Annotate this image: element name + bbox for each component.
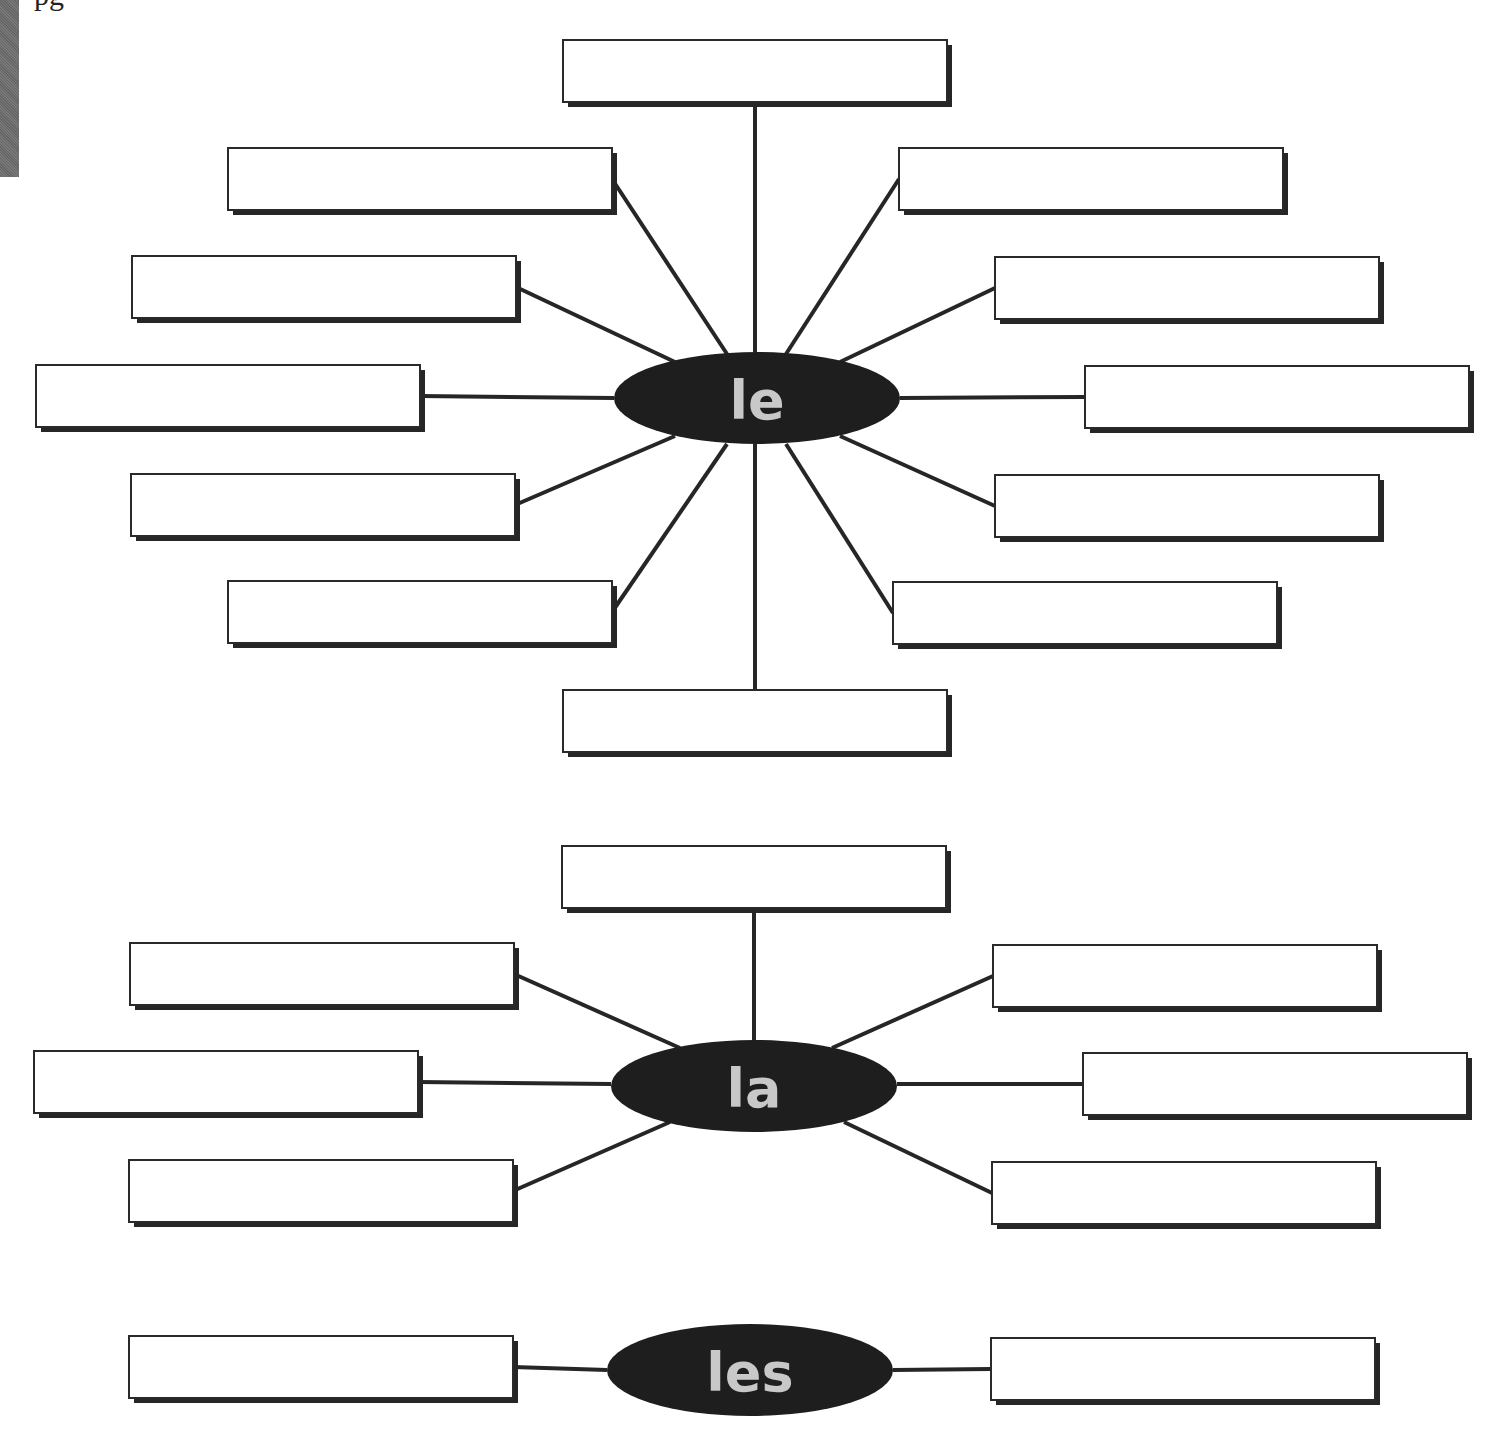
connector-line: [840, 288, 995, 362]
connector-line: [844, 1122, 992, 1193]
connector-line: [893, 1369, 991, 1370]
answer-box[interactable]: [36, 365, 425, 432]
answer-box[interactable]: [1083, 1053, 1472, 1120]
connector-line: [418, 1082, 611, 1084]
answer-box[interactable]: [563, 40, 952, 107]
answer-box-field[interactable]: [1083, 1053, 1467, 1115]
answer-box[interactable]: [993, 945, 1382, 1012]
answer-box[interactable]: [893, 582, 1282, 649]
answer-box-field[interactable]: [992, 1162, 1376, 1224]
answer-box[interactable]: [129, 1160, 518, 1227]
web-le: le: [36, 40, 1474, 757]
answer-box-field[interactable]: [129, 1160, 513, 1222]
answer-box-field[interactable]: [993, 945, 1377, 1007]
answer-box-field[interactable]: [130, 943, 514, 1005]
word-web-diagram: lelales: [0, 0, 1505, 1446]
web-les: les: [129, 1324, 1380, 1416]
answer-box-field[interactable]: [893, 582, 1277, 644]
hub-label-le: le: [729, 369, 784, 432]
answer-box-field[interactable]: [995, 257, 1379, 319]
answer-box-field[interactable]: [228, 581, 612, 643]
answer-box-field[interactable]: [1085, 366, 1469, 428]
connector-line: [513, 1122, 670, 1191]
web-la: la: [34, 846, 1472, 1229]
answer-box[interactable]: [995, 257, 1384, 324]
connector-line: [840, 436, 995, 506]
connector-line: [515, 436, 675, 505]
answer-box[interactable]: [132, 256, 521, 323]
answer-box-field[interactable]: [562, 846, 946, 908]
answer-box[interactable]: [562, 846, 951, 913]
answer-box[interactable]: [34, 1051, 423, 1118]
answer-box[interactable]: [995, 475, 1384, 542]
answer-box[interactable]: [131, 474, 520, 541]
hub-label-les: les: [706, 1341, 793, 1404]
answer-box-field[interactable]: [995, 475, 1379, 537]
connector-line: [832, 976, 993, 1048]
answer-box[interactable]: [991, 1338, 1380, 1405]
answer-box-field[interactable]: [36, 365, 420, 427]
answer-box-field[interactable]: [132, 256, 516, 318]
answer-box-field[interactable]: [131, 474, 515, 536]
connector-line: [420, 396, 614, 398]
answer-box-field[interactable]: [228, 148, 612, 210]
connector-line: [513, 1367, 607, 1370]
hub-label-la: la: [727, 1057, 782, 1120]
connector-line: [514, 974, 680, 1048]
connector-line: [900, 397, 1085, 398]
answer-box[interactable]: [228, 581, 617, 648]
connector-line: [786, 179, 899, 354]
answer-box[interactable]: [228, 148, 617, 215]
answer-box[interactable]: [563, 690, 952, 757]
answer-box-field[interactable]: [129, 1336, 513, 1398]
answer-box[interactable]: [899, 148, 1288, 215]
answer-box[interactable]: [130, 943, 519, 1010]
answer-box[interactable]: [992, 1162, 1381, 1229]
connector-line: [786, 444, 893, 613]
answer-box-field[interactable]: [563, 690, 947, 752]
connector-line: [516, 287, 675, 362]
answer-box-field[interactable]: [34, 1051, 418, 1113]
answer-box-field[interactable]: [563, 40, 947, 102]
answer-box-field[interactable]: [899, 148, 1283, 210]
connector-line: [612, 179, 727, 354]
answer-box-field[interactable]: [991, 1338, 1375, 1400]
answer-box[interactable]: [1085, 366, 1474, 433]
connector-line: [612, 444, 727, 612]
answer-box[interactable]: [129, 1336, 518, 1403]
